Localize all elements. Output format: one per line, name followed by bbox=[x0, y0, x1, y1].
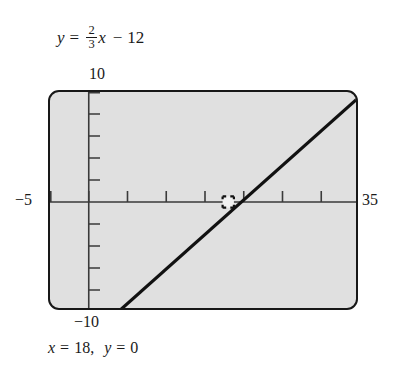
caption-comma: , bbox=[90, 339, 94, 356]
equation-lhs-variable: y bbox=[57, 29, 65, 46]
equation-minus-sign: − bbox=[113, 29, 123, 46]
solution-caption: x=18,y=0 bbox=[48, 340, 138, 356]
equation-variable-x: x bbox=[98, 29, 106, 46]
caption-x-equals: = bbox=[60, 339, 69, 356]
x-max-label: 35 bbox=[362, 192, 378, 208]
graph-canvas bbox=[50, 92, 358, 310]
x-min-label: −5 bbox=[15, 192, 32, 208]
fraction-denominator: 3 bbox=[87, 38, 97, 51]
graph-plot-area[interactable] bbox=[48, 90, 358, 310]
caption-y-value: 0 bbox=[130, 339, 138, 356]
x-axis bbox=[50, 191, 358, 202]
caption-y-variable: y bbox=[104, 339, 111, 356]
y-min-label: −10 bbox=[74, 314, 99, 330]
equation-constant: 12 bbox=[127, 29, 144, 46]
y-axis bbox=[89, 92, 100, 310]
caption-x-value: 18 bbox=[74, 339, 90, 356]
x-intercept-cursor bbox=[223, 196, 234, 207]
equation-expression: y = 2 3 x − 12 bbox=[57, 24, 144, 51]
equation-equals-sign: = bbox=[70, 29, 80, 46]
y-max-label: 10 bbox=[89, 66, 105, 82]
function-line bbox=[118, 96, 358, 310]
equation-fraction: 2 3 bbox=[86, 24, 97, 51]
caption-y-equals: = bbox=[116, 339, 125, 356]
fraction-numerator: 2 bbox=[87, 24, 97, 37]
caption-x-variable: x bbox=[48, 339, 55, 356]
